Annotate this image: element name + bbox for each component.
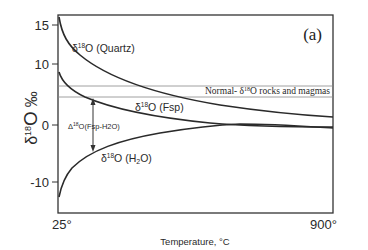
chart: (a) δ18O (Quartz) δ18O (Fsp) δ18O (H2O) … [0, 0, 368, 250]
svg-text:δ18O‰: δ18O‰ [20, 91, 41, 145]
fsp-label: δ18O (Fsp) [135, 101, 184, 113]
y-tick-label-15: 15 [35, 18, 49, 33]
y-tick-label-10: 10 [35, 57, 49, 72]
x-tick-label-start: 25° [52, 217, 72, 232]
fsp-curve [59, 72, 333, 127]
band-label: Normal- δ18O rocks and magmas [205, 86, 330, 97]
x-axis-title: Temperature, °C [160, 236, 229, 247]
quartz-label: δ18O (Quartz) [72, 42, 135, 54]
panel-label: (a) [303, 25, 322, 44]
fractionation-label: Δ18O(Fsp-H2O) [68, 121, 120, 131]
x-tick-label-end: 900° [310, 217, 337, 232]
arrow-head-down [91, 145, 96, 152]
y-tick-label-minus10: -10 [30, 175, 49, 190]
h2o-label: δ18O (H2O) [101, 152, 152, 165]
y-axis-title: δ18O‰ [20, 91, 41, 145]
y-tick-label-0: 0 [42, 118, 49, 133]
